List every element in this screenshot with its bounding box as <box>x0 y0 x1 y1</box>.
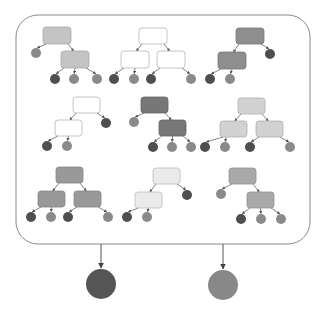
leaf-dark <box>205 74 215 84</box>
split-node <box>141 97 168 113</box>
split-node <box>220 121 247 137</box>
leaf-mid <box>69 74 79 84</box>
leaf-dark <box>63 212 73 222</box>
leaf-mid <box>103 212 113 222</box>
split-node <box>159 120 186 136</box>
leaf-dark <box>182 190 192 200</box>
ensemble-diagram <box>0 0 324 316</box>
leaf-mid <box>129 117 139 127</box>
leaf-mid <box>285 142 295 152</box>
leaf-dark <box>42 141 52 151</box>
leaf-mid <box>186 142 196 152</box>
leaf-mid <box>46 212 56 222</box>
leaf-dark <box>101 118 111 128</box>
split-node <box>74 191 101 207</box>
split-node <box>121 51 149 68</box>
split-node <box>229 168 256 184</box>
leaf-dark <box>109 74 119 84</box>
output-circle <box>208 270 238 300</box>
output-right <box>208 244 238 300</box>
leaf-mid <box>216 189 226 199</box>
leaf-mid <box>225 74 235 84</box>
leaf-dark <box>265 49 275 59</box>
split-node <box>135 192 162 208</box>
split-node <box>218 52 246 69</box>
split-node <box>73 97 100 113</box>
leaf-dark <box>50 74 60 84</box>
leaf-dark <box>236 214 246 224</box>
leaf-mid <box>142 212 152 222</box>
leaf-dark <box>26 212 36 222</box>
leaf-dark <box>146 74 156 84</box>
leaf-mid <box>62 141 72 151</box>
split-node <box>43 27 71 44</box>
leaf-dark <box>245 142 255 152</box>
output-group <box>86 244 238 300</box>
leaf-mid <box>186 74 196 84</box>
leaf-mid <box>276 214 286 224</box>
split-node <box>38 191 65 207</box>
split-node <box>56 167 83 183</box>
split-node <box>153 168 180 184</box>
leaf-dark <box>200 142 210 152</box>
split-node <box>157 51 185 68</box>
split-node <box>256 121 283 137</box>
output-left <box>86 244 116 299</box>
leaf-mid <box>167 142 177 152</box>
split-node <box>55 120 82 136</box>
leaf-mid <box>256 214 266 224</box>
split-node <box>236 28 264 44</box>
leaf-mid <box>220 142 230 152</box>
output-circle <box>86 269 116 299</box>
leaf-dark <box>148 142 158 152</box>
leaf-mid <box>31 48 41 58</box>
split-node <box>238 98 265 114</box>
split-node <box>139 28 167 44</box>
split-node <box>61 51 89 68</box>
leaf-dark <box>122 212 132 222</box>
split-node <box>247 192 274 208</box>
leaf-mid <box>129 74 139 84</box>
leaf-mid <box>92 74 102 84</box>
